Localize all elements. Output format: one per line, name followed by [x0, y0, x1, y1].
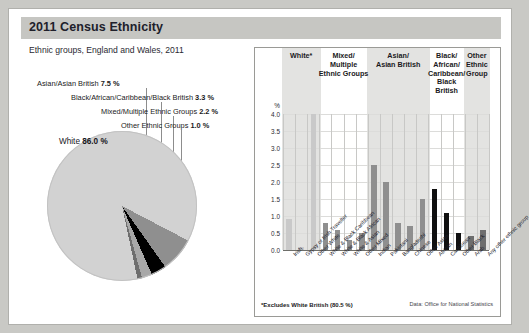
group-header-line: Ethnic Groups [318, 70, 369, 79]
pie-callout-value: 7.5 % [101, 79, 120, 88]
group-header-line: Asian British [367, 61, 430, 70]
group-header-line: Group [464, 70, 491, 79]
pie-chart [47, 131, 197, 281]
title-bar: 2011 Census Ethnicity [21, 17, 501, 39]
y-tick-2.5: 2.5 [271, 162, 280, 169]
y-tick-1.5: 1.5 [271, 196, 280, 203]
x-label-any-other-ethnic-group: Any other ethnic group [486, 214, 529, 257]
group-header-line: Black British [427, 78, 466, 96]
subtitle: Ethnic groups, England and Wales, 2011 [29, 45, 184, 55]
bar-separator [489, 114, 490, 250]
bar-separator [295, 114, 296, 250]
infographic-card: 2011 Census Ethnicity Ethnic groups, Eng… [8, 8, 512, 325]
bar-other-white [311, 114, 317, 250]
bar-plot-area: 0.00.51.01.52.02.53.03.54.0% [283, 114, 489, 250]
page-title: 2011 Census Ethnicity [29, 20, 163, 34]
bar-separator [477, 114, 478, 250]
pie-callout-4: Other Ethnic Groups 1.0 % [121, 121, 209, 130]
pie-callout-value: 3.3 % [195, 93, 214, 102]
group-header-3: Asian/Asian British [367, 52, 430, 70]
bar-footnote: *Excludes White British (80.5 %) [261, 302, 353, 308]
y-tick-2.0: 2.0 [271, 179, 280, 186]
pie-graphic [47, 131, 197, 281]
y-tick-3.0: 3.0 [271, 145, 280, 152]
bar-separator [307, 114, 308, 250]
group-header-5: OtherEthnicGroup [464, 52, 491, 78]
y-tick-0.5: 0.5 [271, 230, 280, 237]
bar-separator [319, 114, 320, 250]
pie-callout-2: Black/African/Caribbean/Black British 3.… [71, 93, 214, 102]
y-tick-1.0: 1.0 [271, 213, 280, 220]
y-tick-0.0: 0.0 [271, 247, 280, 254]
group-header-2: Mixed/MultipleEthnic Groups [318, 52, 369, 78]
pie-callout-name: Other Ethnic Groups [121, 121, 190, 130]
y-tick-3.5: 3.5 [271, 128, 280, 135]
pie-callout-value: 1.0 % [190, 121, 209, 130]
y-axis-unit-label: % [274, 102, 280, 109]
bar-irish [286, 219, 292, 250]
pie-callout-3: Mixed/Multiple Ethnic Groups 2.2 % [101, 107, 218, 116]
bar-separator [428, 114, 429, 250]
bar-separator [404, 114, 405, 250]
group-header-4: Black/African/Caribbean/Black British [427, 52, 466, 96]
pie-callout-name: Mixed/Multiple Ethnic Groups [101, 107, 199, 116]
bar-separator [416, 114, 417, 250]
bar-separator [392, 114, 393, 250]
pie-callout-1: Asian/Asian British 7.5 % [37, 79, 120, 88]
bar-separator [465, 114, 466, 250]
bar-separator [283, 114, 284, 250]
source-note: Data: Office for National Statistics [409, 301, 493, 307]
y-tick-4.0: 4.0 [271, 111, 280, 118]
bar-chart-panel: White*Mixed/MultipleEthnic GroupsAsian/A… [254, 47, 501, 317]
pie-main-value: 86.0 % [82, 137, 108, 146]
bar-separator [344, 114, 345, 250]
pie-callout-value: 2.2 % [199, 107, 218, 116]
bar-separator [453, 114, 454, 250]
group-header-line: White* [282, 52, 321, 61]
pie-callout-name: Black/African/Caribbean/Black British [71, 93, 195, 102]
bar-separator [380, 114, 381, 250]
group-header-1: White* [282, 52, 321, 61]
pie-callout-name: Asian/Asian British [37, 79, 101, 88]
pie-main-label: White 86.0 % [59, 137, 108, 146]
bar-separator [441, 114, 442, 250]
